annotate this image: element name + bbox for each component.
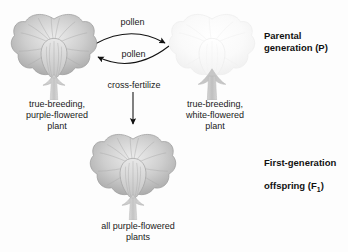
pea-flower-white-icon — [166, 8, 258, 100]
arrow-label-pollen-bottom: pollen — [96, 49, 171, 59]
arrow-label-cross-fertilize: cross-fertilize — [89, 80, 179, 90]
label-f1-generation: First-generation offspring (F1) — [264, 145, 348, 195]
flower-purple-parent — [8, 8, 100, 100]
arrow-pollen-to-white — [95, 34, 165, 44]
pea-flower-offspring-icon — [87, 128, 179, 220]
caption-purple-parent: true-breeding, purple-flowered plant — [2, 99, 112, 132]
label-f1-line2-post: ) — [321, 180, 324, 191]
flower-offspring — [87, 128, 179, 220]
label-f1-line2-pre: offspring (F — [264, 180, 317, 191]
punnett-cross-diagram: pollen pollen cross-fertilize true-breed… — [0, 0, 348, 252]
label-f1-line1: First-generation — [264, 157, 336, 168]
flower-white-parent — [166, 8, 258, 100]
label-parental-generation: Parental generation (P) — [264, 30, 348, 53]
pea-flower-purple-icon — [8, 8, 100, 100]
arrow-label-pollen-top: pollen — [95, 17, 170, 27]
caption-white-parent: true-breeding, white-flowered plant — [160, 99, 270, 132]
caption-offspring: all purple-flowered plants — [68, 221, 208, 243]
